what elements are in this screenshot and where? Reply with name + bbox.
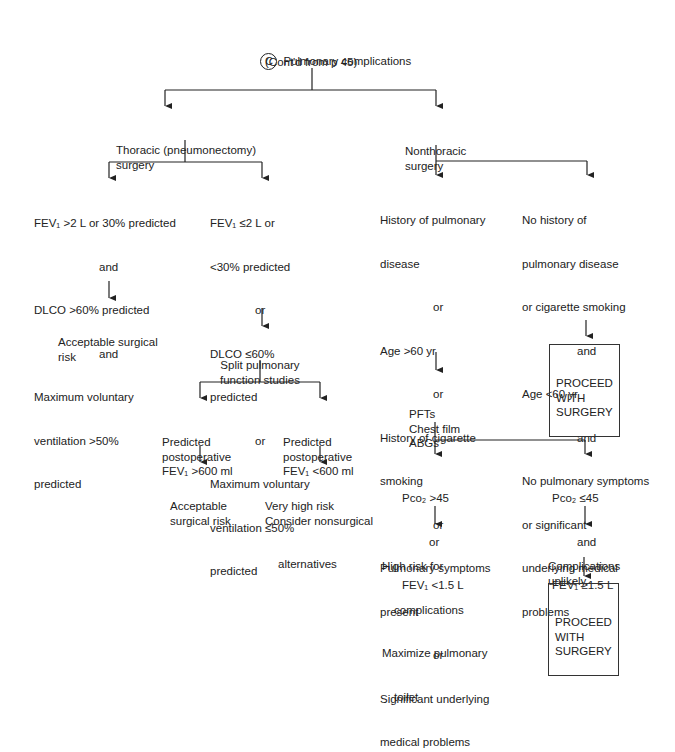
pfts-chest-film-abgs-node: PFTsChest filmABGs xyxy=(409,378,460,465)
postop-fev1-high-outcome: Acceptablesurgical risk xyxy=(170,470,231,543)
split-pulmonary-function-node: Split pulmonaryfunction studies xyxy=(200,329,320,402)
thoracic-surgery-node: Thoracic (pneumonectomy)surgery xyxy=(116,114,256,187)
postop-fev1-low-outcome: Very high riskConsider nonsurgical alter… xyxy=(265,470,373,586)
nonthoracic-surgery-node: Nonthoracicsurgery xyxy=(405,115,466,188)
abnormal-outcome: High risk for complications Maximize pul… xyxy=(382,530,487,719)
proceed-with-surgery-box-1: PROCEEDWITHSURGERY xyxy=(549,344,620,437)
diagram-subtitle: (Cont'd from p 45) xyxy=(265,55,357,70)
thoracic-good-outcome: Acceptable surgicalrisk xyxy=(58,306,158,379)
proceed-with-surgery-box-2: PROCEEDWITHSURGERY xyxy=(548,583,619,676)
